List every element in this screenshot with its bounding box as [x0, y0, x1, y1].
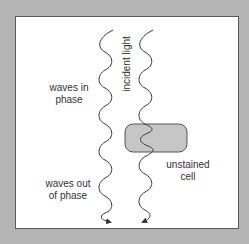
label-unstained-cell-line2: cell	[162, 171, 214, 183]
label-waves-in-phase-line2: phase	[44, 94, 94, 106]
label-waves-out-of-phase: waves out of phase	[40, 178, 96, 202]
label-waves-out-of-phase-line2: of phase	[40, 190, 96, 202]
label-unstained-cell: unstained cell	[162, 159, 214, 183]
label-waves-in-phase: waves in phase	[44, 82, 94, 106]
label-unstained-cell-line1: unstained	[162, 159, 214, 171]
unstained-cell-shape	[125, 124, 187, 152]
left-light-wave	[99, 30, 113, 222]
label-incident-light: incident light	[121, 32, 133, 96]
label-waves-out-of-phase-line1: waves out	[40, 178, 96, 190]
label-waves-in-phase-line1: waves in	[44, 82, 94, 94]
